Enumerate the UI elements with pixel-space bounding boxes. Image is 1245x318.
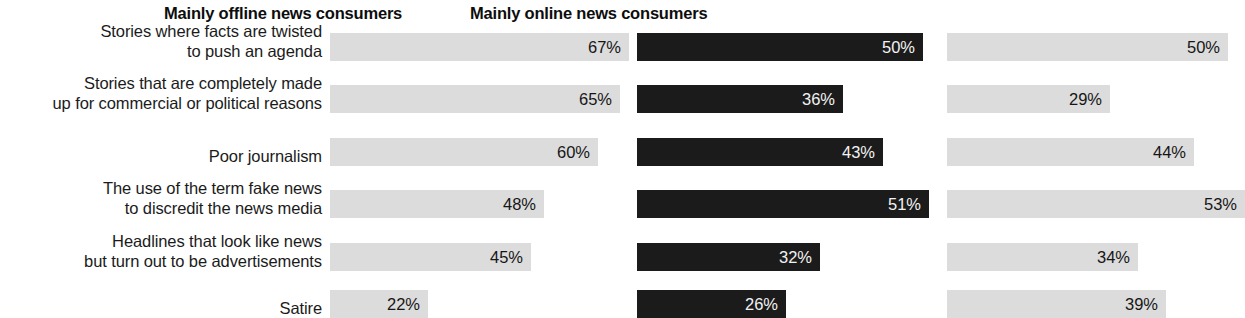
column-header-3: Mainly online news consumers bbox=[470, 4, 707, 23]
bar: 26% bbox=[637, 290, 786, 318]
category-label: The use of the term fake news to discred… bbox=[0, 178, 322, 218]
category-label: Satire bbox=[0, 298, 322, 318]
bar-value-label: 39% bbox=[1125, 296, 1158, 313]
bar-value-label: 45% bbox=[490, 249, 523, 266]
bar-chart: Stories where facts are twisted to push … bbox=[0, 0, 1245, 318]
bar: 43% bbox=[637, 138, 883, 166]
bar-value-label: 43% bbox=[842, 144, 875, 161]
bar-value-label: 29% bbox=[1069, 91, 1102, 108]
bar: 29% bbox=[947, 85, 1110, 113]
bar: 51% bbox=[637, 190, 929, 218]
bar-value-label: 44% bbox=[1153, 144, 1186, 161]
category-label: Stories where facts are twisted to push … bbox=[0, 21, 322, 61]
bar-value-label: 50% bbox=[882, 39, 915, 56]
bar-value-label: 50% bbox=[1187, 39, 1220, 56]
bar: 22% bbox=[330, 290, 428, 318]
category-label: Headlines that look like news but turn o… bbox=[0, 231, 322, 271]
bar: 65% bbox=[330, 85, 620, 113]
bar: 39% bbox=[947, 290, 1166, 318]
category-label: Stories that are completely made up for … bbox=[0, 73, 322, 113]
bar-value-label: 36% bbox=[802, 91, 835, 108]
bar-value-label: 65% bbox=[579, 91, 612, 108]
bar-value-label: 26% bbox=[745, 296, 778, 313]
bar-value-label: 32% bbox=[779, 249, 812, 266]
bar-value-label: 22% bbox=[387, 296, 420, 313]
bar-value-label: 51% bbox=[888, 196, 921, 213]
bar-value-label: 48% bbox=[503, 196, 536, 213]
bar: 48% bbox=[330, 190, 544, 218]
bar: 53% bbox=[947, 190, 1245, 218]
bar: 50% bbox=[637, 33, 923, 61]
bar: 50% bbox=[947, 33, 1228, 61]
bar: 45% bbox=[330, 243, 531, 271]
bar: 44% bbox=[947, 138, 1194, 166]
category-label: Poor journalism bbox=[0, 146, 322, 166]
column-header-2: Mainly offline news consumers bbox=[164, 4, 402, 23]
bar: 67% bbox=[330, 33, 629, 61]
bar-value-label: 67% bbox=[588, 39, 621, 56]
category-label-column: Stories where facts are twisted to push … bbox=[0, 0, 322, 318]
bar-value-label: 60% bbox=[557, 144, 590, 161]
bar: 32% bbox=[637, 243, 820, 271]
bar: 34% bbox=[947, 243, 1138, 271]
bar: 60% bbox=[330, 138, 598, 166]
bar-value-label: 53% bbox=[1204, 196, 1237, 213]
bar-value-label: 34% bbox=[1097, 249, 1130, 266]
bar: 36% bbox=[637, 85, 843, 113]
